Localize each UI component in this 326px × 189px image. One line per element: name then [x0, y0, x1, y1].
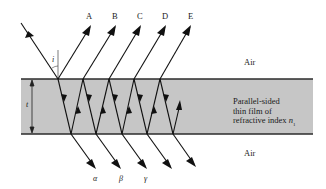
- angle-label: i: [52, 56, 54, 64]
- transmitted-label-beta: β: [119, 175, 123, 183]
- reflected-label-d: D: [162, 12, 168, 21]
- reflected-label-e: E: [188, 12, 193, 21]
- thickness-label: t: [26, 101, 28, 109]
- air-label-top: Air: [244, 58, 255, 67]
- air-label-bottom: Air: [244, 149, 255, 158]
- transmitted-rays: [71, 134, 196, 169]
- transmitted-label-gamma: γ: [144, 175, 147, 183]
- reflected-label-a: A: [86, 12, 92, 21]
- film-line-3-text: refractive index: [233, 115, 287, 125]
- incident-ray: [21, 23, 58, 79]
- film-description: Parallel-sided thin film of refractive i…: [233, 97, 295, 129]
- refractive-index-subscript: 1: [293, 122, 296, 127]
- reflected-label-b: B: [112, 12, 118, 21]
- thin-film-diagram: [0, 0, 326, 189]
- reflected-label-c: C: [137, 12, 143, 21]
- reflected-rays: [58, 25, 191, 79]
- film-line-3: refractive index n1: [233, 116, 295, 129]
- transmitted-label-alpha: α: [93, 175, 97, 183]
